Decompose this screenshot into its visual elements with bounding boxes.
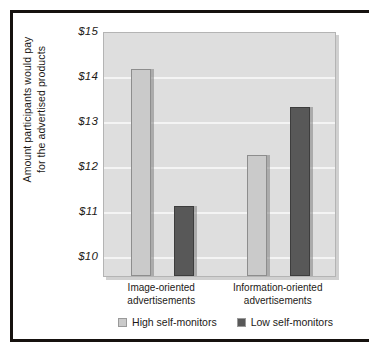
- x-category-line2: advertisements: [103, 295, 220, 308]
- y-axis-title-line2: for the advertised products: [34, 12, 48, 208]
- y-axis-ticks: $15$14$13$12$11$10: [50, 32, 98, 277]
- y-axis-title-line1: Amount participants would pay: [21, 12, 35, 208]
- bar-high-self-monitors-group1: [131, 69, 151, 276]
- bar-low-self-monitors-group1: [174, 206, 194, 276]
- figure-bottom-rule: [10, 339, 369, 342]
- y-tick-label: $11: [52, 206, 98, 217]
- y-axis-title: Amount participants would pay for the ad…: [21, 12, 48, 208]
- plot-area: [103, 32, 336, 277]
- y-tick-label: $14: [52, 71, 98, 82]
- x-category-label-1: Image-orientedadvertisements: [103, 282, 220, 307]
- figure-left-rule: [10, 10, 13, 342]
- y-tick-label: $10: [52, 251, 98, 262]
- chart-legend: High self-monitorsLow self-monitors: [103, 316, 348, 328]
- x-category-label-2: Information-orientedadvertisements: [220, 282, 337, 307]
- bar-low-self-monitors-group2: [290, 107, 310, 276]
- legend-item-high-self-monitors: High self-monitors: [118, 316, 217, 328]
- x-category-line1: Information-oriented: [220, 282, 337, 295]
- legend-label: High self-monitors: [132, 316, 217, 328]
- x-axis-categories: Image-orientedadvertisementsInformation-…: [103, 282, 336, 307]
- bar-high-self-monitors-group2: [247, 155, 267, 276]
- x-category-line1: Image-oriented: [103, 282, 220, 295]
- y-tick-label: $13: [52, 116, 98, 127]
- legend-swatch-icon: [118, 318, 127, 327]
- y-tick-label: $12: [52, 161, 98, 172]
- legend-swatch-icon: [237, 318, 246, 327]
- figure-top-rule: [10, 10, 369, 13]
- x-category-line2: advertisements: [220, 295, 337, 308]
- figure: Amount participants would pay for the ad…: [0, 0, 369, 353]
- y-tick-label: $15: [52, 26, 98, 37]
- legend-item-low-self-monitors: Low self-monitors: [237, 316, 333, 328]
- legend-label: Low self-monitors: [251, 316, 333, 328]
